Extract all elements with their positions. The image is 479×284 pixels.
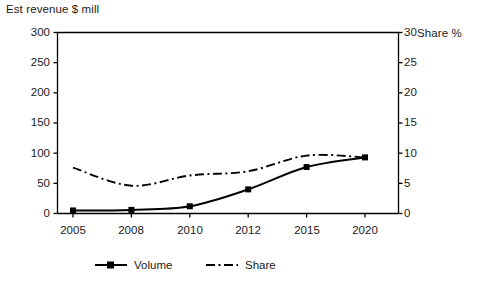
series-marker-volume (128, 207, 134, 213)
series-marker-volume (304, 164, 310, 170)
chart-figure: Est revenue $ mill Share % 300 250 200 1… (0, 0, 479, 284)
series-line-volume (73, 157, 365, 210)
plot-area (0, 0, 479, 284)
legend-marker-volume (107, 262, 114, 269)
series-marker-volume (245, 186, 251, 192)
series-marker-volume (187, 203, 193, 209)
series-line-share (73, 155, 365, 186)
series-marker-volume (70, 207, 76, 213)
